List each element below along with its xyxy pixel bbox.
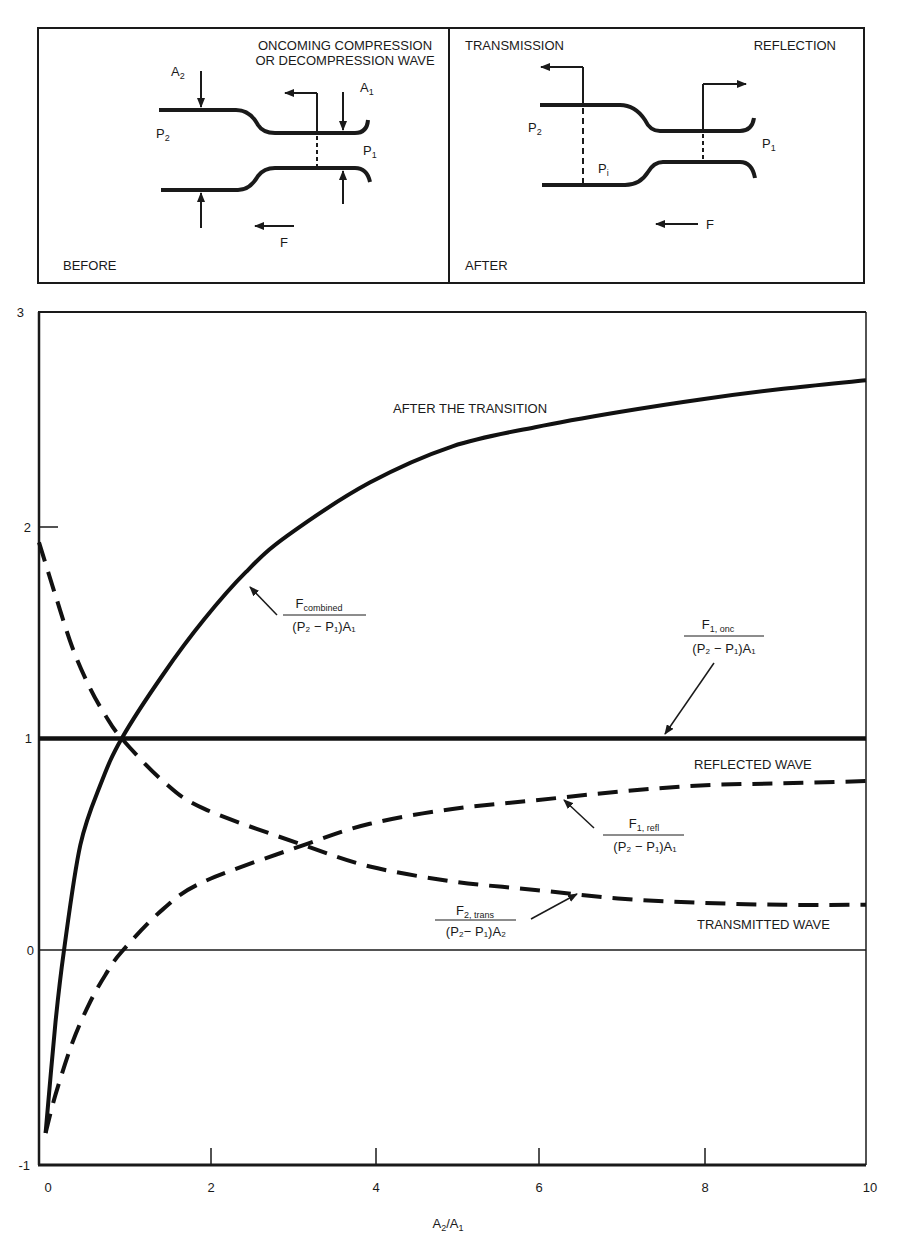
reflection-label: REFLECTION	[754, 38, 836, 53]
wave-label-line1: ONCOMING COMPRESSION	[258, 38, 432, 53]
combined-curve-label: Fcombined (P₂ − P₁)A₁	[250, 587, 366, 634]
svg-text:8: 8	[701, 1180, 708, 1195]
p1-label: P1	[363, 143, 377, 160]
figure: ONCOMING COMPRESSION OR DECOMPRESSION WA…	[0, 0, 898, 1246]
svg-text:F1, refl: F1, refl	[629, 816, 659, 833]
diagram-panels	[38, 28, 864, 283]
y-tick-labels: 3 2 1 0 -1	[17, 305, 34, 1173]
svg-text:(P₂ − P₁)A₁: (P₂ − P₁)A₁	[613, 839, 677, 854]
diagram-frame	[38, 28, 864, 283]
pi-label: Pi	[598, 161, 609, 178]
after-panel: TRANSMISSION REFLECTION P2 Pi P1 F AFTER	[465, 38, 836, 273]
wave-label-line2: OR DECOMPRESSION WAVE	[255, 53, 434, 68]
svg-text:(P₂ − P₁)A₁: (P₂ − P₁)A₁	[692, 641, 756, 656]
svg-text:-1: -1	[18, 1158, 30, 1173]
duct-upper-wall	[159, 110, 368, 133]
reflected-wave-curve	[46, 781, 866, 1133]
transmission-label: TRANSMISSION	[465, 38, 564, 53]
force-label: F	[280, 235, 288, 250]
chart: 3 2 1 0 -1 0 2 4 6 8 10 A2/A1 AFTER THE …	[17, 305, 877, 1233]
transmitted-curve-label: F2, trans (P₂− P₁)A₂	[435, 894, 577, 939]
svg-text:(P₂− P₁)A₂: (P₂− P₁)A₂	[446, 924, 506, 939]
transmitted-wave-curve	[39, 542, 866, 905]
svg-text:4: 4	[372, 1180, 379, 1195]
x-ticks	[211, 1148, 705, 1165]
p2-label: P2	[156, 126, 170, 143]
oncoming-curve-label: F1, onc (P₂ − P₁)A₁	[665, 617, 764, 734]
svg-text:2: 2	[24, 520, 31, 535]
after-title: AFTER	[465, 258, 508, 273]
a1-label: A1	[360, 80, 374, 97]
svg-text:(P₂ − P₁)A₁: (P₂ − P₁)A₁	[292, 619, 356, 634]
x-axis-label: A2/A1	[433, 1216, 464, 1233]
annotation-reflected-wave: REFLECTED WAVE	[694, 757, 812, 772]
p2-label: P2	[528, 120, 542, 137]
duct-lower-wall	[542, 162, 755, 185]
annotation-transmitted-wave: TRANSMITTED WAVE	[697, 917, 830, 932]
x-tick-labels: 0 2 4 6 8 10	[44, 1180, 877, 1195]
svg-text:1: 1	[25, 731, 32, 746]
svg-text:0: 0	[27, 943, 34, 958]
svg-text:10: 10	[863, 1180, 877, 1195]
before-panel: ONCOMING COMPRESSION OR DECOMPRESSION WA…	[63, 38, 435, 273]
svg-text:Fcombined: Fcombined	[296, 596, 343, 613]
svg-text:2: 2	[207, 1180, 214, 1195]
duct-upper-wall	[540, 105, 754, 131]
a2-label: A2	[171, 64, 185, 81]
before-title: BEFORE	[63, 258, 117, 273]
svg-text:0: 0	[44, 1180, 51, 1195]
svg-text:F1, onc: F1, onc	[702, 617, 735, 634]
p1-label: P1	[762, 136, 776, 153]
annotation-after-transition: AFTER THE TRANSITION	[393, 401, 547, 416]
svg-text:6: 6	[535, 1180, 542, 1195]
force-label: F	[706, 217, 714, 232]
svg-text:3: 3	[17, 305, 24, 320]
reflected-curve-label: F1, refl (P₂ − P₁)A₁	[564, 800, 684, 854]
duct-lower-wall	[161, 168, 370, 190]
svg-text:F2, trans: F2, trans	[456, 903, 494, 920]
